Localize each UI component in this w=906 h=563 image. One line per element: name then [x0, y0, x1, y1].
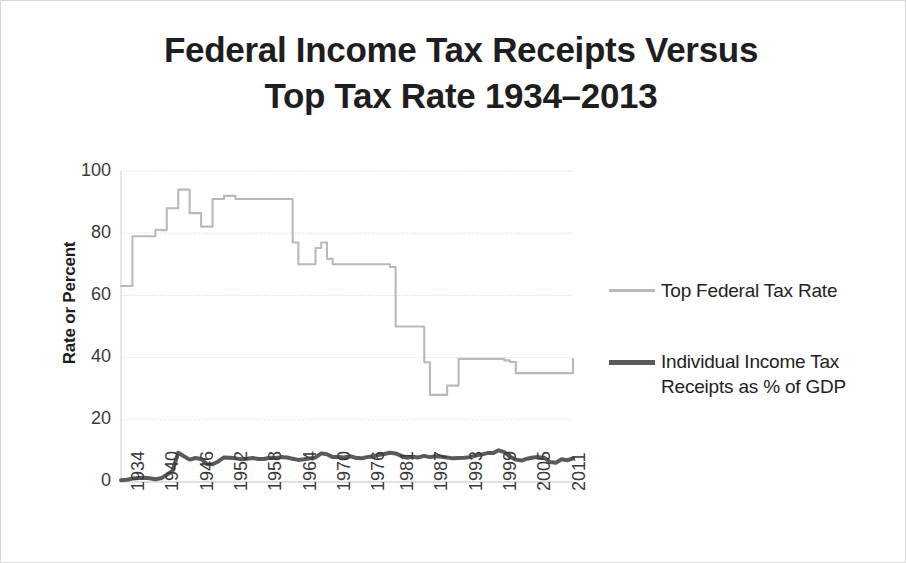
x-tick-label: 1976: [368, 451, 389, 491]
x-tick-label: 2011: [569, 452, 590, 491]
legend-label: Top Federal Tax Rate: [661, 278, 837, 303]
legend-item-top-federal-tax-rate: Top Federal Tax Rate: [609, 278, 899, 303]
x-tick-label: 1946: [197, 451, 218, 491]
chart-figure: Federal Income Tax Receipts Versus Top T…: [0, 0, 906, 563]
x-tick-label: 1934: [128, 451, 149, 491]
x-tick-label: 2005: [534, 451, 555, 491]
x-tick-label: 1970: [334, 451, 355, 491]
x-tick-label: 1999: [500, 451, 521, 491]
legend-item-individual-income-tax-receipts: Individual Income Tax Receipts as % of G…: [609, 349, 899, 399]
x-tick-label: 1940: [162, 451, 183, 491]
legend-swatch-line-icon: [609, 289, 655, 292]
chart-legend: Top Federal Tax Rate Individual Income T…: [609, 278, 899, 425]
x-tick-label: 1987: [431, 451, 452, 491]
x-tick-label: 1952: [231, 451, 252, 491]
legend-label: Individual Income Tax Receipts as % of G…: [661, 349, 893, 399]
x-tick-label: 1993: [466, 451, 487, 491]
x-tick-label: 1964: [300, 451, 321, 491]
x-tick-label: 1958: [265, 451, 286, 491]
legend-swatch-line-icon: [609, 360, 655, 365]
x-tick-label: 1981: [397, 451, 418, 491]
